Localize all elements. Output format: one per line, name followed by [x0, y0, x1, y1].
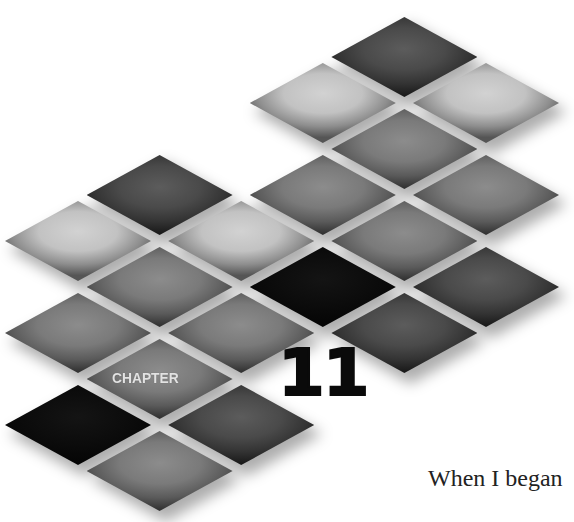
diamond-shape [87, 431, 233, 511]
chapter-label: CHAPTER [112, 369, 191, 386]
chapter-number: 11 [278, 338, 367, 408]
diamond-tile-medium [87, 431, 233, 511]
body-opening-text: When I began [428, 465, 563, 492]
